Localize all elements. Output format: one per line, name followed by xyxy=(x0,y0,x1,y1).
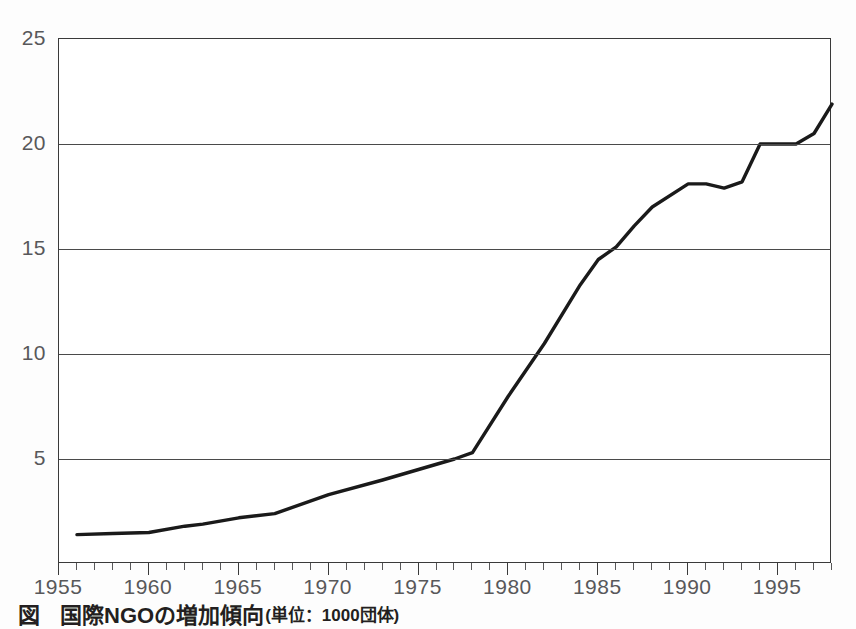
caption-title: 国際NGOの増加傾向 xyxy=(60,597,264,629)
gridline-y-5 xyxy=(59,459,830,460)
x-tick-1989 xyxy=(669,563,670,570)
x-tick-1976 xyxy=(436,563,437,570)
figure-caption: 図 国際NGOの増加傾向 (単位：1000団体) xyxy=(18,598,838,628)
x-tick-1992 xyxy=(723,563,724,570)
y-tick-label-25: 25 xyxy=(22,26,46,50)
x-tick-1990 xyxy=(687,563,688,575)
x-tick-1974 xyxy=(400,563,401,570)
gridline-y-10 xyxy=(59,354,830,355)
x-tick-1961 xyxy=(166,563,167,570)
x-tick-label-1955: 1955 xyxy=(34,575,83,599)
x-tick-1959 xyxy=(130,563,131,570)
x-tick-1972 xyxy=(364,563,365,570)
x-tick-1973 xyxy=(382,563,383,570)
x-tick-1958 xyxy=(112,563,113,570)
x-tick-1977 xyxy=(453,563,454,570)
x-tick-1991 xyxy=(705,563,706,570)
x-tick-1960 xyxy=(148,563,149,575)
x-tick-label-1990: 1990 xyxy=(663,575,712,599)
x-tick-1982 xyxy=(543,563,544,570)
gridline-y-15 xyxy=(59,249,830,250)
x-tick-1967 xyxy=(274,563,275,570)
x-tick-1964 xyxy=(220,563,221,570)
x-tick-1962 xyxy=(184,563,185,570)
gridline-y-20 xyxy=(59,144,830,145)
x-tick-1975 xyxy=(418,563,419,575)
x-tick-label-1965: 1965 xyxy=(213,575,262,599)
x-tick-label-1970: 1970 xyxy=(303,575,352,599)
x-tick-1998 xyxy=(831,563,832,570)
x-tick-1970 xyxy=(328,563,329,575)
x-tick-1968 xyxy=(292,563,293,570)
x-tick-1984 xyxy=(579,563,580,570)
x-tick-1979 xyxy=(489,563,490,570)
x-tick-1963 xyxy=(202,563,203,570)
figure-container: 510152025 195519601965197019751980198519… xyxy=(0,0,856,629)
x-tick-1957 xyxy=(94,563,95,570)
x-tick-1995 xyxy=(777,563,778,575)
x-tick-label-1985: 1985 xyxy=(573,575,622,599)
x-tick-1971 xyxy=(346,563,347,570)
x-tick-1996 xyxy=(795,563,796,570)
y-tick-label-5: 5 xyxy=(34,446,46,470)
data-series-line xyxy=(59,39,832,564)
x-tick-1965 xyxy=(238,563,239,575)
caption-unit: (単位：1000団体) xyxy=(265,601,399,626)
caption-marker: 図 xyxy=(18,597,40,629)
x-tick-label-1980: 1980 xyxy=(483,575,532,599)
x-tick-1956 xyxy=(76,563,77,570)
x-tick-1994 xyxy=(759,563,760,570)
x-tick-1988 xyxy=(651,563,652,570)
x-tick-1966 xyxy=(256,563,257,570)
x-tick-1981 xyxy=(525,563,526,570)
x-tick-1980 xyxy=(507,563,508,575)
x-tick-1986 xyxy=(615,563,616,570)
x-tick-1997 xyxy=(813,563,814,570)
x-tick-1969 xyxy=(310,563,311,570)
x-tick-1987 xyxy=(633,563,634,570)
x-tick-label-1995: 1995 xyxy=(753,575,802,599)
y-tick-label-15: 15 xyxy=(22,236,46,260)
x-tick-label-1975: 1975 xyxy=(393,575,442,599)
y-axis: 510152025 xyxy=(0,0,58,629)
x-tick-1993 xyxy=(741,563,742,570)
x-tick-1978 xyxy=(471,563,472,570)
x-tick-1983 xyxy=(561,563,562,570)
y-tick-label-10: 10 xyxy=(22,341,46,365)
plot-area xyxy=(58,38,831,563)
y-tick-label-20: 20 xyxy=(22,131,46,155)
x-tick-1955 xyxy=(58,563,59,575)
x-tick-label-1960: 1960 xyxy=(124,575,173,599)
x-tick-1985 xyxy=(597,563,598,575)
